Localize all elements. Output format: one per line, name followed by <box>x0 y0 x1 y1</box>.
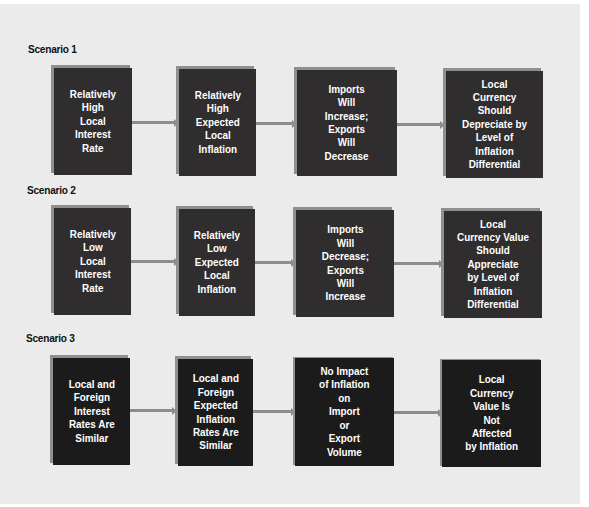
scenario-3-label: Scenario 3 <box>26 332 75 344</box>
step-text: Local and Foreign Expected Inflation Rat… <box>192 372 238 452</box>
step-text: Imports Will Decrease; Exports Will Incr… <box>321 223 368 303</box>
step-text: No Impact of Inflation on Import or Expo… <box>319 365 370 459</box>
scenario-3-step-1-box: Local and Foreign Interest Rates Are Sim… <box>53 358 130 465</box>
arrow-right-icon <box>130 409 174 412</box>
scenario-2-label: Scenario 2 <box>27 184 76 196</box>
arrow-right-icon <box>394 411 440 414</box>
step-text: Local Currency Value Should Appreciate b… <box>451 218 535 312</box>
arrow-right-icon <box>131 260 176 263</box>
scenario-2-step-4-box: Local Currency Value Should Appreciate b… <box>444 211 542 318</box>
step-text: Relatively Low Local Interest Rate <box>69 228 115 295</box>
scenario-3-step-4-box: Local Currency Value Is Not Affected by … <box>442 360 541 467</box>
step-text: Local and Foreign Interest Rates Are Sim… <box>68 378 114 445</box>
arrow-right-icon <box>132 121 176 124</box>
step-text: Local Currency Should Depreciate by Leve… <box>453 78 536 172</box>
arrow-right-icon <box>397 123 442 126</box>
scenario-1-step-4-box: Local Currency Should Depreciate by Leve… <box>446 71 543 178</box>
scenario-2-step-1-box: Relatively Low Local Interest Rate <box>54 208 131 315</box>
step-text: Relatively High Local Interest Rate <box>70 88 116 155</box>
arrow-right-icon <box>256 122 294 125</box>
scenario-2-step-3-box: Imports Will Decrease; Exports Will Incr… <box>296 210 394 317</box>
scenario-1-label: Scenario 1 <box>28 43 77 55</box>
step-text: Local Currency Value Is Not Affected by … <box>465 373 518 453</box>
arrow-right-icon <box>255 261 293 264</box>
scenario-1-step-1-box: Relatively High Local Interest Rate <box>54 68 132 175</box>
step-text: Relatively Low Expected Local Inflation <box>194 229 240 296</box>
step-text: Imports Will Increase; Exports Will Decr… <box>325 83 369 163</box>
scenario-1-step-2-box: Relatively High Expected Local Inflation <box>179 69 256 176</box>
arrow-right-icon <box>253 410 293 413</box>
step-text: Relatively High Expected Local Inflation <box>194 89 240 156</box>
scenario-1-step-3-box: Imports Will Increase; Exports Will Decr… <box>297 70 397 176</box>
scenario-2-step-2-box: Relatively Low Expected Local Inflation <box>179 209 255 316</box>
scenario-3-step-2-box: Local and Foreign Expected Inflation Rat… <box>178 359 253 466</box>
arrow-right-icon <box>394 262 441 265</box>
scenario-3-step-3-box: No Impact of Inflation on Import or Expo… <box>295 358 394 466</box>
